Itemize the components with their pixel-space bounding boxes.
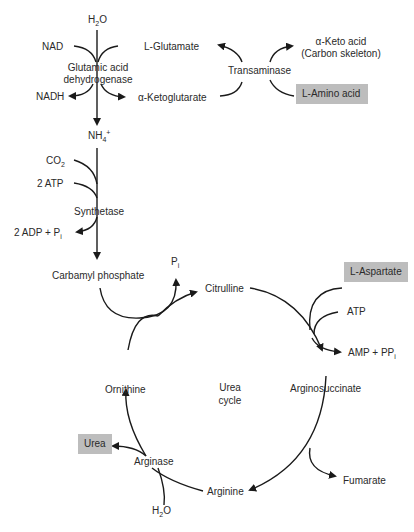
- keto-acid-label-2: (Carbon skeleton): [296, 48, 386, 60]
- atp-label: ATP: [347, 306, 366, 318]
- gdh-label-2: dehydrogenase: [58, 74, 138, 86]
- arginine-label: Arginine: [207, 486, 244, 498]
- amp-ppi-label: AMP + PPi: [348, 347, 396, 359]
- nh4-label: NH4+: [88, 130, 110, 142]
- h2o-top-label: H2O: [88, 14, 107, 26]
- carbamyl-phosphate-label: Carbamyl phosphate: [52, 270, 144, 282]
- transaminase-label: Transaminase: [228, 65, 291, 77]
- synthetase-label: Synthetase: [74, 206, 124, 218]
- l-glutamate-label: L-Glutamate: [144, 41, 199, 53]
- adp-pi-label: 2 ADP + Pi: [14, 227, 62, 239]
- nadh-label: NADH: [36, 91, 64, 103]
- arginase-label: Arginase: [134, 456, 173, 468]
- a-ketoglutarate-label: α-Ketoglutarate: [138, 92, 207, 104]
- l-amino-acid-box: L-Amino acid: [296, 84, 368, 104]
- citrulline-label: Citrulline: [205, 283, 244, 295]
- argininosuccinate-label: Arginosuccinate: [290, 383, 361, 395]
- cycle-label-1: Urea: [210, 382, 250, 394]
- l-aspartate-box: L-Aspartate: [344, 262, 408, 282]
- fumarate-label: Fumarate: [343, 475, 386, 487]
- co2-label: CO2: [46, 155, 65, 167]
- ornithine-label: Ornithine: [105, 384, 146, 396]
- urea-box: Urea: [78, 434, 112, 454]
- keto-acid-label-1: α-Keto acid: [296, 36, 386, 48]
- atp2-label: 2 ATP: [37, 178, 64, 190]
- cycle-label-2: cycle: [210, 395, 250, 407]
- nad-label: NAD: [42, 41, 63, 53]
- gdh-label-1: Glutamic acid: [58, 62, 138, 74]
- pi-label: Pi: [171, 256, 179, 268]
- h2o-bottom-label: H2O: [152, 505, 171, 517]
